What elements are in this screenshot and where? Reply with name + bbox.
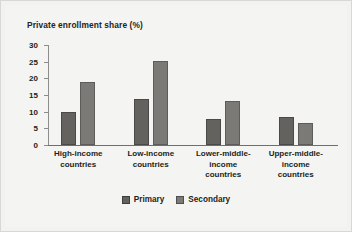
bar-secondary-1	[153, 61, 168, 145]
chart-legend: PrimarySecondary	[1, 195, 351, 204]
legend-swatch-icon	[176, 196, 184, 204]
bar-secondary-3	[298, 123, 313, 145]
y-axis-tick: 0	[44, 145, 48, 146]
plot-area: 051015202530 High-incomecountriesLow-inc…	[48, 45, 338, 145]
bar-primary-2	[206, 119, 221, 145]
y-axis-tick: 10	[44, 112, 48, 113]
bar-primary-3	[279, 117, 294, 145]
y-axis-tick-label: 15	[29, 91, 38, 100]
legend-swatch-icon	[122, 196, 130, 204]
x-axis-label-line: income	[253, 160, 339, 171]
chart-title: Private enrollment share (%)	[27, 20, 143, 30]
y-axis-tick-label: 30	[29, 41, 38, 50]
bar-secondary-2	[225, 101, 240, 145]
y-axis-tick: 30	[44, 45, 48, 46]
x-axis-label-line: Upper-middle-	[253, 149, 339, 160]
y-axis-tick: 25	[44, 62, 48, 63]
y-axis-tick-label: 25	[29, 57, 38, 66]
x-axis-label-3: Upper-middle-incomecountries	[253, 149, 339, 181]
y-axis-tick-label: 20	[29, 74, 38, 83]
y-axis-tick: 20	[44, 78, 48, 79]
legend-label: Primary	[134, 195, 165, 204]
legend-item-secondary[interactable]: Secondary	[176, 195, 230, 204]
bar-primary-1	[134, 99, 149, 145]
bar-primary-0	[61, 112, 76, 145]
legend-item-primary[interactable]: Primary	[122, 195, 165, 204]
y-axis-tick: 5	[44, 128, 48, 129]
y-axis-tick-label: 10	[29, 107, 38, 116]
bar-secondary-0	[80, 82, 95, 145]
legend-label: Secondary	[188, 195, 230, 204]
y-axis-tick-label: 5	[34, 124, 38, 133]
chart-figure: Private enrollment share (%) 05101520253…	[0, 0, 352, 232]
x-axis-label-line: countries	[253, 170, 339, 181]
y-axis-tick: 15	[44, 95, 48, 96]
x-axis-line	[48, 145, 338, 146]
y-axis-line	[48, 45, 49, 145]
